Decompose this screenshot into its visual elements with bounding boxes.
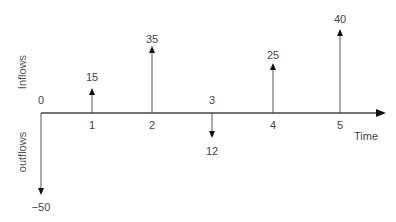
- time-tick-5: 5: [337, 120, 343, 131]
- time-axis-label: Time: [354, 131, 378, 142]
- time-tick-0: 0: [38, 95, 44, 106]
- flow-value-t5: 40: [334, 14, 346, 25]
- arrowhead-down-icon: [38, 188, 44, 195]
- inflows-label: Inflows: [17, 55, 28, 89]
- arrowhead-down-icon: [209, 131, 215, 138]
- time-tick-1: 1: [89, 120, 95, 131]
- outflows-label: outflows: [17, 132, 28, 172]
- time-tick-4: 4: [270, 120, 276, 131]
- time-axis-arrowhead: [376, 109, 386, 117]
- cash-flow-diagram: [0, 0, 396, 222]
- time-tick-3: 3: [209, 95, 215, 106]
- flow-value-t4: 25: [267, 50, 279, 61]
- flow-value-t3: 12: [206, 146, 218, 157]
- flow-value-t0: −50: [32, 202, 51, 213]
- time-tick-2: 2: [149, 120, 155, 131]
- flow-value-t2: 35: [146, 34, 158, 45]
- flow-value-t1: 15: [86, 72, 98, 83]
- arrowhead-up-icon: [270, 63, 276, 70]
- arrowhead-up-icon: [89, 88, 95, 95]
- arrowhead-up-icon: [337, 29, 343, 36]
- arrowhead-up-icon: [149, 46, 155, 53]
